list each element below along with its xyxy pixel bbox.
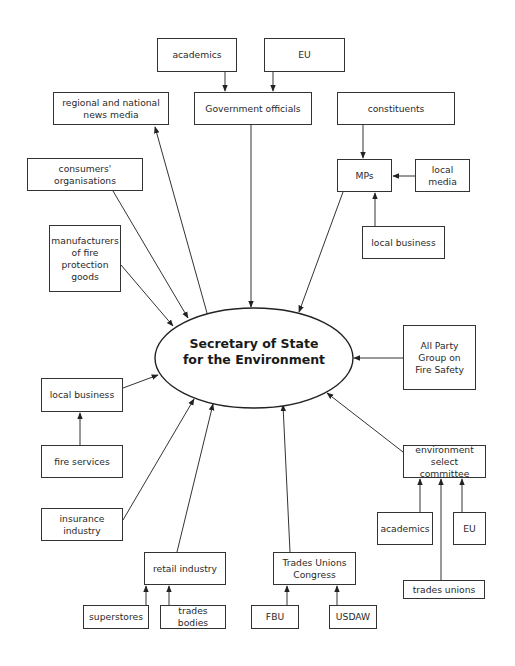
node-label: Trades Unions Congress	[282, 557, 346, 581]
node-label: trades bodies	[163, 605, 223, 629]
node-local-media[interactable]: local media	[415, 159, 470, 192]
node-manufacturers-fire-protection[interactable]: manufacturers of fire protection goods	[49, 225, 121, 292]
node-label: Government officials	[205, 103, 300, 115]
node-label: academics	[172, 49, 221, 61]
node-all-party-group[interactable]: All Party Group on Fire Safety	[403, 325, 476, 390]
arrow-environment-select-committee-to-secretary-of-state	[327, 393, 403, 452]
node-label: local business	[371, 237, 435, 249]
node-label: regional and national news media	[62, 97, 160, 121]
node-label: EU	[298, 49, 311, 61]
node-insurance-industry[interactable]: insurance industry	[41, 508, 123, 541]
node-government-officials[interactable]: Government officials	[194, 92, 312, 125]
node-label: retail industry	[153, 563, 217, 575]
node-trades-unions[interactable]: trades unions	[403, 580, 485, 599]
node-label: academics	[380, 523, 429, 535]
node-usdaw[interactable]: USDAW	[329, 605, 377, 629]
node-constituents[interactable]: constituents	[337, 92, 455, 125]
arrow-trades-unions-congress-to-secretary-of-state	[283, 405, 290, 552]
arrow-local-business-left-to-secretary-of-state	[123, 375, 158, 388]
node-label: local business	[50, 389, 114, 401]
node-academics-right[interactable]: academics	[377, 512, 433, 545]
node-academics-top[interactable]: academics	[157, 38, 237, 72]
node-fire-services[interactable]: fire services	[41, 445, 123, 478]
node-environment-select-committee[interactable]: environment select committee	[403, 445, 486, 478]
node-label: FBU	[266, 611, 284, 623]
node-retail-industry[interactable]: retail industry	[144, 552, 226, 585]
node-superstores[interactable]: superstores	[83, 605, 149, 629]
node-label: trades unions	[413, 584, 476, 596]
node-label: insurance industry	[44, 513, 120, 537]
node-fbu[interactable]: FBU	[251, 605, 299, 629]
arrow-insurance-industry-to-secretary-of-state	[123, 399, 194, 520]
arrow-retail-industry-to-secretary-of-state	[177, 404, 213, 552]
node-local-business-left[interactable]: local business	[41, 378, 123, 412]
node-mps[interactable]: MPs	[337, 159, 392, 192]
node-label: manufacturers of fire protection goods	[51, 235, 118, 283]
node-local-business-right[interactable]: local business	[362, 226, 445, 259]
node-label: MPs	[355, 170, 373, 182]
node-eu-top[interactable]: EU	[264, 38, 345, 72]
node-regional-national-news-media[interactable]: regional and national news media	[53, 92, 169, 125]
node-label: consumers' organisations	[30, 163, 140, 187]
secretary-of-state-label: Secretary of State for the Environment	[155, 336, 353, 367]
node-eu-right[interactable]: EU	[453, 512, 486, 545]
node-label: local media	[418, 164, 467, 188]
node-consumers-organisations[interactable]: consumers' organisations	[27, 158, 143, 191]
node-trades-bodies[interactable]: trades bodies	[160, 605, 226, 629]
node-label: All Party Group on Fire Safety	[415, 340, 464, 376]
node-label: USDAW	[336, 611, 370, 623]
arrow-secretary-of-state-to-regional-national-news-media	[155, 127, 207, 313]
node-trades-unions-congress[interactable]: Trades Unions Congress	[273, 552, 356, 585]
arrow-manufacturers-fire-protection-to-secretary-of-state	[121, 265, 173, 326]
node-label: fire services	[54, 456, 110, 468]
node-label: constituents	[368, 103, 425, 115]
node-label: EU	[463, 523, 476, 535]
node-label: superstores	[89, 611, 143, 623]
node-label: environment select committee	[406, 444, 483, 480]
arrow-mps-to-secretary-of-state	[299, 192, 343, 312]
